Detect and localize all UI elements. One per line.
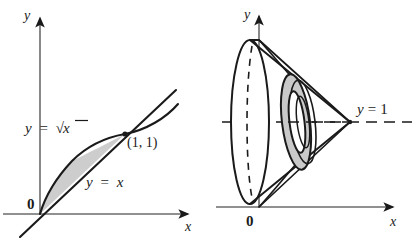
right-x-axis-label: x (389, 214, 397, 229)
line-curve-y-equals-x (20, 90, 176, 237)
left-panel: y = √x y = x (1, 1) 0 y x (3, 8, 192, 237)
right-panel: y=1 0 y x (216, 7, 412, 229)
apex-point (348, 120, 352, 124)
intersection-point-label: (1, 1) (127, 135, 158, 151)
right-origin-label: 0 (246, 213, 254, 229)
sqrt-curve-label: y = √x (23, 120, 70, 136)
figure-canvas: y = √x y = x (1, 1) 0 y x (0, 0, 416, 246)
left-y-axis-label: y (22, 8, 31, 23)
figure-root: y = √x y = x (1, 1) 0 y x (0, 0, 416, 246)
left-origin-label: 0 (27, 196, 35, 212)
left-x-axis-label: x (184, 219, 192, 234)
axis-of-revolution-label: y=1 (355, 101, 388, 117)
line-curve-label: y = x (84, 174, 124, 190)
right-y-axis-label: y (242, 7, 251, 22)
